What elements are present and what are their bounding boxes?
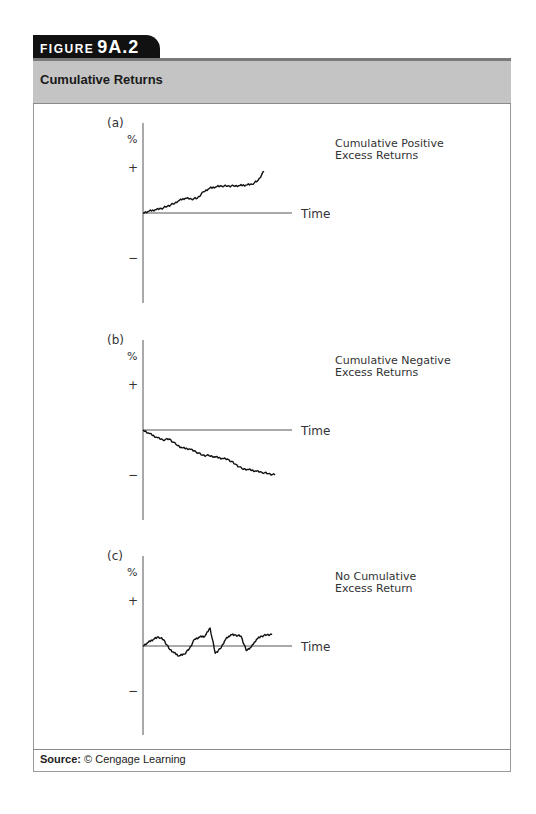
y-tick-plus: + — [128, 594, 138, 608]
y-tick-minus: − — [128, 251, 138, 265]
panel-title: Excess Returns — [335, 149, 419, 162]
panel-label: (b) — [107, 333, 124, 347]
panel-label: (a) — [107, 116, 124, 130]
x-axis-label: Time — [300, 640, 330, 654]
chart-panel-c: (c)%+−TimeNo CumulativeExcess Return — [107, 549, 416, 735]
panel-label: (c) — [107, 549, 123, 563]
y-axis-label: % — [127, 350, 137, 363]
chart-area: (a)%+−TimeCumulative PositiveExcess Retu… — [0, 0, 536, 814]
return-curve — [143, 171, 264, 213]
panel-title: Excess Returns — [335, 366, 419, 379]
y-tick-minus: − — [128, 468, 138, 482]
return-curve — [143, 430, 275, 475]
y-axis-label: % — [127, 133, 137, 146]
y-tick-minus: − — [128, 684, 138, 698]
source-text: © Cengage Learning — [84, 753, 186, 765]
chart-panel-a: (a)%+−TimeCumulative PositiveExcess Retu… — [107, 116, 444, 303]
x-axis-label: Time — [300, 207, 330, 221]
y-tick-plus: + — [128, 161, 138, 175]
source-divider — [33, 749, 511, 750]
source-label: Source: — [40, 753, 81, 765]
panel-title: Excess Return — [335, 582, 413, 595]
return-curve — [143, 628, 272, 656]
y-axis-label: % — [127, 566, 137, 579]
chart-panel-b: (b)%+−TimeCumulative NegativeExcess Retu… — [107, 333, 451, 520]
x-axis-label: Time — [300, 424, 330, 438]
source-line: Source: © Cengage Learning — [40, 753, 186, 765]
y-tick-plus: + — [128, 378, 138, 392]
